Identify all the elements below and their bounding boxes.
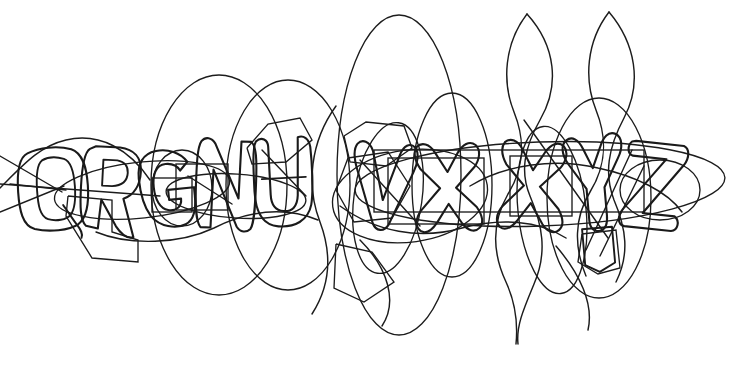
captcha-image-container[interactable]: QRGNUVXXYZ (0, 0, 741, 378)
captcha-background (0, 0, 741, 378)
captcha-canvas (0, 0, 741, 378)
